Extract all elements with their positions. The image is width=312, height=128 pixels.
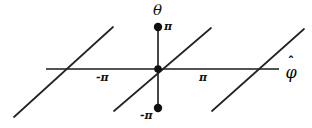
theta-positive-pi-label: π: [164, 21, 172, 32]
phi-glyph: φ: [283, 65, 299, 81]
phi-negative-pi-label: -π: [96, 72, 109, 83]
phi-hat-axis-label: ˆ φ: [283, 55, 299, 81]
theta-axis-label: θ: [153, 3, 162, 18]
theta-negative-pi-label: -π: [140, 110, 153, 121]
fixed-point-top-dot: [154, 23, 162, 31]
diagram-svg: [0, 0, 312, 128]
figure-canvas: θ π -π -π π ˆ φ: [0, 0, 312, 128]
phi-positive-pi-label: π: [199, 72, 207, 83]
fixed-point-bottom-dot: [154, 104, 162, 112]
fixed-point-origin-dot: [154, 65, 162, 73]
